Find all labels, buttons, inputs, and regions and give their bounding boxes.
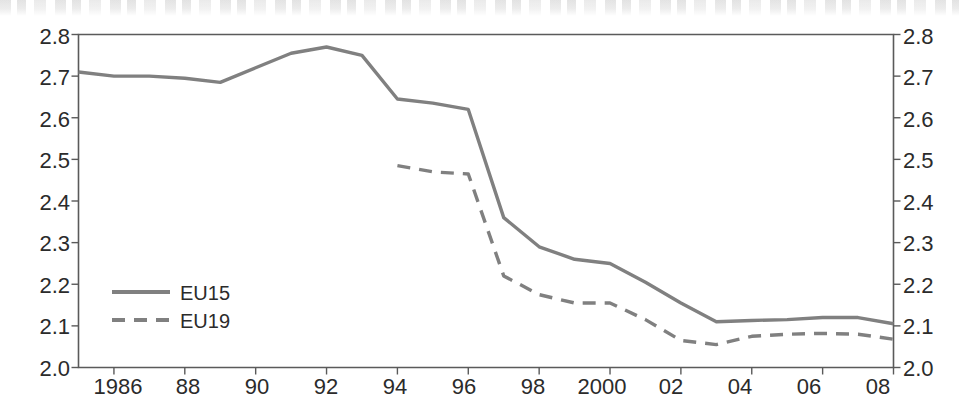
legend-label-eu15: EU15 xyxy=(180,282,230,305)
legend-label-eu19: EU19 xyxy=(180,310,230,333)
xtick-04: 04 xyxy=(700,374,780,400)
ytick-right-2-4: 2.4 xyxy=(903,190,959,216)
ytick-right-2-3: 2.3 xyxy=(903,231,959,257)
xtick-98: 98 xyxy=(493,374,573,400)
chart-figure: 2.8 2.7 2.6 2.5 2.4 2.3 2.2 2.1 2.0 2.8 … xyxy=(0,0,959,413)
xtick-94: 94 xyxy=(355,374,435,400)
xtick-08: 08 xyxy=(838,374,918,400)
ytick-left-2-6: 2.6 xyxy=(14,107,70,133)
xtick-88: 88 xyxy=(148,374,228,400)
xtick-06: 06 xyxy=(769,374,849,400)
xtick-2000: 2000 xyxy=(562,374,642,400)
ytick-right-2-1: 2.1 xyxy=(903,314,959,340)
ytick-right-2-2: 2.2 xyxy=(903,273,959,299)
xtick-96: 96 xyxy=(424,374,504,400)
ytick-left-2-1: 2.1 xyxy=(14,314,70,340)
ytick-right-2-7: 2.7 xyxy=(903,65,959,91)
ytick-left-2-2: 2.2 xyxy=(14,273,70,299)
xtick-02: 02 xyxy=(631,374,711,400)
ytick-left-2-0: 2.0 xyxy=(14,356,70,382)
ytick-right-2-5: 2.5 xyxy=(903,148,959,174)
ytick-left-2-4: 2.4 xyxy=(14,190,70,216)
ytick-left-2-5: 2.5 xyxy=(14,148,70,174)
legend-line-samples xyxy=(112,292,170,320)
ytick-left-2-8: 2.8 xyxy=(14,24,70,50)
xtick-1986: 1986 xyxy=(78,374,158,400)
ytick-left-2-7: 2.7 xyxy=(14,65,70,91)
line-chart-plot xyxy=(0,0,959,413)
ytick-right-2-8: 2.8 xyxy=(903,24,959,50)
xtick-92: 92 xyxy=(286,374,366,400)
ytick-left-2-3: 2.3 xyxy=(14,231,70,257)
xtick-90: 90 xyxy=(217,374,297,400)
ytick-right-2-6: 2.6 xyxy=(903,107,959,133)
